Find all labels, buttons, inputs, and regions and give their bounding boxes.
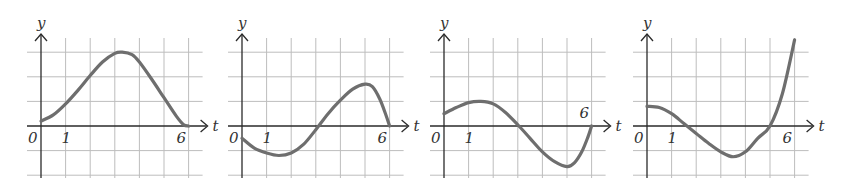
tick-label-6: 6 xyxy=(378,129,388,147)
origin-label: 0 xyxy=(229,129,239,147)
tick-label-6: 6 xyxy=(580,104,590,122)
graph-panel-1: yt016 xyxy=(27,14,220,178)
chart-canvas: yt016yt016yt016yt016 xyxy=(0,0,841,192)
tick-label-1: 1 xyxy=(465,129,475,147)
tick-label-1: 1 xyxy=(668,129,678,147)
origin-label: 0 xyxy=(431,129,441,147)
y-axis-label: y xyxy=(439,14,449,32)
t-axis-label: t xyxy=(213,117,220,135)
tick-label-1: 1 xyxy=(263,129,273,147)
tick-label-6: 6 xyxy=(783,129,793,147)
origin-label: 0 xyxy=(634,129,644,147)
graph-panel-3: yt016 xyxy=(430,14,623,178)
t-axis-label: t xyxy=(819,117,826,135)
origin-label: 0 xyxy=(28,129,38,147)
tick-label-6: 6 xyxy=(177,129,187,147)
t-axis-label: t xyxy=(414,117,421,135)
t-axis-label: t xyxy=(616,117,623,135)
y-axis-label: y xyxy=(642,14,652,32)
y-axis-label: y xyxy=(36,14,46,32)
graph-panel-4: yt016 xyxy=(633,14,826,178)
tick-label-1: 1 xyxy=(62,129,72,147)
y-axis-label: y xyxy=(237,14,247,32)
graph-panel-2: yt016 xyxy=(228,14,421,178)
